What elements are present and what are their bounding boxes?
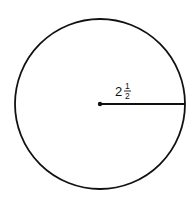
circle-diagram: 2 1 2 [0,0,196,202]
radius-label-denominator: 2 [125,91,130,101]
radius-label: 2 1 2 [115,81,131,101]
radius-label-numerator: 1 [125,81,130,91]
center-point [98,102,102,106]
radius-label-whole: 2 [115,84,122,99]
